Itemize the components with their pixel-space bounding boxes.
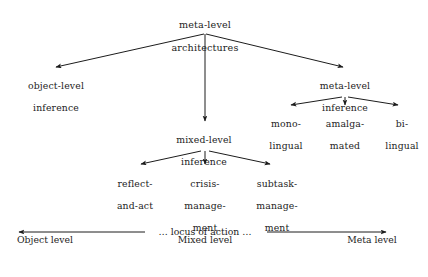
- node-line: manage-: [256, 201, 298, 212]
- node-line: reflect-: [117, 179, 153, 190]
- node-line: inference: [176, 157, 231, 168]
- node-line: and-act: [117, 201, 153, 212]
- node-object-level-inference: object-level inference: [28, 70, 84, 125]
- node-line: bi-: [385, 119, 418, 130]
- axis-label-object-level: Object level: [17, 234, 73, 245]
- node-line: crisis-: [184, 179, 226, 190]
- node-line: meta-level: [171, 19, 238, 30]
- node-mono-lingual: mono- lingual: [269, 108, 302, 163]
- node-line: meta-level: [320, 81, 370, 92]
- axis-label-line: level: [375, 234, 397, 245]
- axis-label-line: level: [210, 234, 232, 245]
- axis-label-line: Object: [17, 234, 48, 245]
- diagram-canvas: meta-level architectures object-level in…: [0, 0, 428, 277]
- axis-label-line: Meta: [347, 234, 371, 245]
- node-line: amalga-: [326, 119, 365, 130]
- node-amalgamated: amalga- mated: [326, 108, 365, 163]
- axis-label-mixed-level: Mixed level: [178, 234, 232, 245]
- node-line: mono-: [269, 119, 302, 130]
- node-reflect-and-act: reflect- and-act: [117, 168, 153, 223]
- node-subtask-management: subtask- manage- ment: [256, 168, 298, 245]
- axis-label-line: Mixed: [178, 234, 207, 245]
- node-bi-lingual: bi- lingual: [385, 108, 418, 163]
- node-line: subtask-: [256, 179, 298, 190]
- node-line: architectures: [171, 42, 238, 53]
- node-line: mated: [326, 141, 365, 152]
- node-line: manage-: [184, 201, 226, 212]
- axis-label-meta-level: Meta level: [347, 234, 396, 245]
- node-line: object-level: [28, 81, 84, 92]
- node-line: lingual: [269, 141, 302, 152]
- node-line: ment: [256, 223, 298, 234]
- node-line: mixed-level: [176, 135, 231, 146]
- node-line: lingual: [385, 141, 418, 152]
- node-line: inference: [28, 103, 84, 114]
- node-meta-level-architectures: meta-level architectures: [171, 8, 238, 65]
- axis-label-line: level: [51, 234, 73, 245]
